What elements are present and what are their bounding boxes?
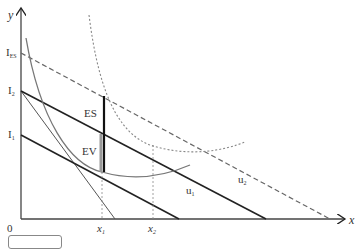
caption-box <box>8 235 62 249</box>
x2-label: x2 <box>147 222 156 235</box>
i1-label: I1 <box>8 128 15 141</box>
es-label: ES <box>84 107 97 119</box>
indifference-curve-u1 <box>26 38 190 177</box>
budget-line-ies-dashed <box>21 53 330 219</box>
ies-label: IES <box>6 46 17 59</box>
ev-label: EV <box>82 145 97 157</box>
i2-label: I2 <box>8 84 15 97</box>
u2-label: u2 <box>238 173 247 186</box>
indifference-curve-u2 <box>89 15 245 152</box>
u1-label: u1 <box>186 184 195 197</box>
origin-label: 0 <box>7 222 13 234</box>
y-axis-label: y <box>7 8 14 22</box>
x-axis-label: x <box>348 213 355 227</box>
x1-label: x1 <box>96 222 105 235</box>
